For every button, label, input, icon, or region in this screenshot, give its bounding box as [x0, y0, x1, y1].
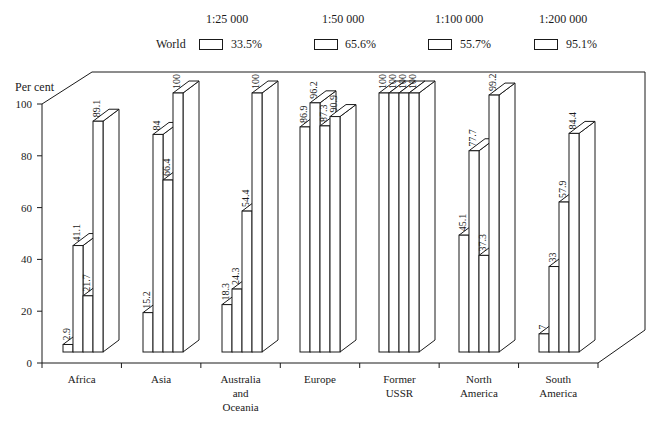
- bar: [330, 105, 356, 352]
- x-category-label: North: [466, 373, 492, 385]
- bar-value-label: 41.1: [71, 224, 82, 242]
- y-tick-label: 60: [21, 202, 33, 214]
- bar-value-label: 90.9: [328, 95, 339, 113]
- bar-value-label: 84: [151, 120, 162, 130]
- bar-group: 18.324.354.4100: [220, 74, 278, 352]
- bar-value-label: 77.7: [467, 129, 478, 147]
- x-category-label: and: [233, 387, 249, 399]
- bar-value-label: 2.9: [61, 328, 72, 341]
- bar-value-label: 24.3: [230, 268, 241, 286]
- bar-group: 45.177.737.399.2: [457, 74, 515, 352]
- x-category-label: Australia: [220, 373, 260, 385]
- bar: [489, 83, 515, 352]
- bar-value-label: 100: [171, 74, 182, 89]
- bar-value-label: 57.9: [557, 181, 568, 199]
- bar-value-label: 54.4: [240, 190, 251, 208]
- bar-value-label: 89.1: [91, 100, 102, 118]
- bar-value-label: 99.2: [487, 74, 498, 92]
- y-tick-label: 0: [27, 357, 33, 369]
- bar-value-label: 86.9: [298, 105, 309, 123]
- bar-group: 86.996.287.390.9: [298, 81, 356, 352]
- bar-group: 2.941.121.789.1: [61, 100, 119, 352]
- x-category-label: USSR: [386, 387, 414, 399]
- bar-value-label: 66.4: [161, 159, 172, 177]
- bar: [173, 81, 199, 352]
- bar-group: 15.28466.4100: [141, 74, 199, 352]
- bar-value-label: 21.7: [81, 274, 92, 292]
- bar-group: 100100100100: [377, 74, 435, 352]
- x-category-label: South: [545, 373, 571, 385]
- bar-value-label: 7: [537, 325, 548, 330]
- bar-group: 73357.984.4: [537, 112, 595, 352]
- x-category-label: Oceania: [223, 401, 259, 413]
- bar-value-label: 15.2: [141, 291, 152, 309]
- bar-value-label: 96.2: [308, 81, 319, 99]
- y-tick-label: 100: [16, 98, 33, 110]
- bar-value-label: 45.1: [457, 214, 468, 232]
- x-category-label: Former: [383, 373, 416, 385]
- bar: [569, 121, 595, 352]
- x-category-label: Africa: [68, 373, 96, 385]
- bar-value-label: 84.4: [567, 112, 578, 130]
- bar-value-label: 100: [407, 74, 418, 89]
- bar-value-label: 100: [250, 74, 261, 89]
- bar-value-label: 37.3: [477, 234, 488, 252]
- bar: [409, 81, 435, 352]
- y-tick-label: 40: [21, 253, 33, 265]
- y-tick-label: 80: [21, 150, 33, 162]
- bar: [252, 81, 278, 352]
- bar-chart: 020406080100AfricaAsiaAustraliaandOceani…: [0, 0, 670, 424]
- x-category-label: Europe: [304, 373, 336, 385]
- x-category-label: America: [460, 387, 498, 399]
- bar: [93, 109, 119, 352]
- x-category-label: Asia: [151, 373, 171, 385]
- x-category-label: America: [539, 387, 577, 399]
- bar-value-label: 33: [547, 253, 558, 263]
- y-tick-label: 20: [21, 305, 33, 317]
